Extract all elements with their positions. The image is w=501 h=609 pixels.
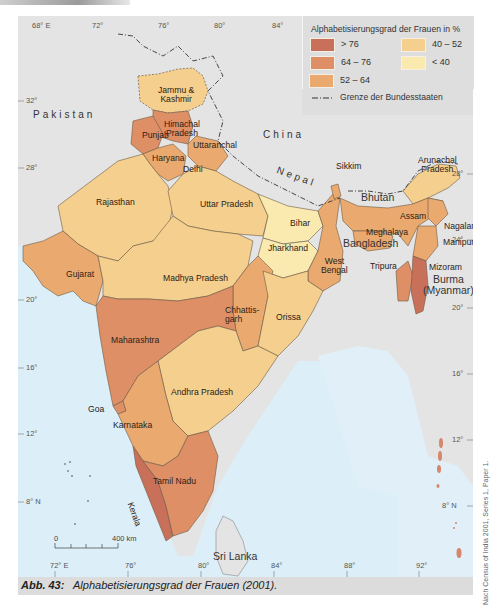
label-china: China: [263, 129, 304, 140]
scale-start: 0: [54, 534, 58, 543]
label-haryana: Haryana: [152, 154, 184, 163]
label-madhya-pradesh: Madhya Pradesh: [163, 274, 228, 283]
label-jammu-kashmir: Jammu & Kashmir: [158, 86, 194, 104]
tick-top-80: 80°: [214, 21, 225, 30]
label-chhattisgarh: Chhattis- garh: [225, 306, 259, 324]
legend-extension: 52 – 64 Grenze der Bundesstaaten: [302, 89, 473, 115]
tick-top-76: 76°: [158, 21, 169, 30]
scale-end: 400 km: [112, 534, 137, 543]
label-tripura: Tripura: [370, 262, 397, 271]
caption-text: Alphabetisierungsgrad der Frauen (2001).: [73, 579, 277, 591]
tick-bottom-84: 84°: [271, 561, 282, 570]
label-punjab: Punjab: [142, 131, 169, 140]
label-maharashtra: Maharashtra: [111, 336, 159, 345]
tick-bottom-76: 76°: [125, 561, 136, 570]
label-gujarat: Gujarat: [66, 270, 94, 279]
legend-title: Alphabetisierungsgrad der Frauen in %: [311, 24, 460, 34]
label-arunachal-pradesh: Arunachal Pradesh: [418, 156, 457, 174]
label-meghalaya: Meghalaya: [366, 228, 408, 237]
label-uttaranchal: Uttaranchal: [193, 141, 237, 150]
region-west-bengal: [308, 194, 343, 291]
label-mizoram: Mizoram: [429, 263, 462, 272]
label-orissa: Orissa: [276, 313, 301, 322]
legend-swatch-lt40: [401, 56, 426, 70]
tick-top-84: 84°: [272, 21, 283, 30]
label-west-bengal: West Bengal: [321, 257, 348, 275]
caption-number: Abb. 43:: [21, 579, 64, 591]
label-bhutan: Bhutan: [361, 192, 394, 203]
tick-right-20: 20°: [452, 303, 463, 312]
legend-label-gt76: > 76: [341, 39, 359, 49]
tick-right-12: 12°: [452, 435, 463, 444]
tick-right-16: 16°: [452, 369, 463, 378]
label-tamil-nadu: Tamil Nadu: [153, 477, 196, 486]
figure-caption: Abb. 43: Alphabetisierungsgrad der Fraue…: [18, 577, 473, 595]
tick-left-12: 12°: [26, 429, 37, 438]
label-karnataka: Karnataka: [113, 421, 152, 430]
boundary-line-icon: [312, 95, 334, 101]
tick-bottom-72: 72° E: [50, 561, 68, 570]
legend-swatch-40-52: [401, 38, 426, 52]
header-strip: [0, 0, 130, 5]
tick-top-68: 68° E: [32, 21, 50, 30]
label-andhra-pradesh: Andhra Pradesh: [171, 388, 233, 397]
region-manipur: [413, 226, 438, 261]
legend-label-64-76: 64 – 76: [341, 57, 371, 67]
legend-swatch-gt76: [310, 38, 335, 52]
legend-label-lt40: < 40: [432, 57, 450, 67]
label-delhi: Delhi: [183, 165, 203, 174]
label-burma: Burma (Myanmar): [423, 274, 473, 296]
tick-left-16: 16°: [26, 363, 37, 372]
tick-bottom-88: 88°: [344, 561, 355, 570]
tick-left-28: 28°: [26, 163, 37, 172]
label-nagaland: Nagaland: [444, 222, 473, 231]
label-manipur: Manipur: [443, 238, 473, 247]
label-rajasthan: Rajasthan: [96, 198, 135, 207]
tick-bottom-92: 92°: [416, 561, 427, 570]
tick-bottom-80: 80°: [198, 561, 209, 570]
label-jharkhand: Jharkhand: [268, 244, 308, 253]
label-bihar: Bihar: [290, 219, 310, 228]
source-note: Nach Census of India 2001, Series 1, Pap…: [482, 461, 489, 605]
legend-boundary-label: Grenze der Bundesstaaten: [340, 92, 443, 102]
legend-swatch-52-64: [309, 74, 334, 88]
label-bangladesh: Bangladesh: [343, 238, 398, 249]
label-assam: Assam: [400, 212, 426, 221]
legend-swatch-64-76: [310, 56, 335, 70]
tick-right-8: 8° N: [442, 501, 457, 510]
legend-label-52-64: 52 – 64: [340, 75, 370, 85]
label-uttar-pradesh: Uttar Pradesh: [200, 200, 253, 209]
label-sri-lanka: Sri Lanka: [213, 551, 257, 562]
tick-top-72: 72°: [92, 21, 103, 30]
label-pakistan: Pakistan: [33, 109, 95, 120]
label-himachal-pradesh: Himachal Pradesh: [164, 120, 200, 138]
label-goa: Goa: [88, 405, 104, 414]
label-sikkim: Sikkim: [336, 162, 361, 171]
tick-left-8: 8° N: [26, 497, 41, 506]
tick-left-20: 20°: [26, 295, 37, 304]
tick-left-32: 32°: [26, 96, 37, 105]
legend-label-40-52: 40 – 52: [432, 39, 462, 49]
